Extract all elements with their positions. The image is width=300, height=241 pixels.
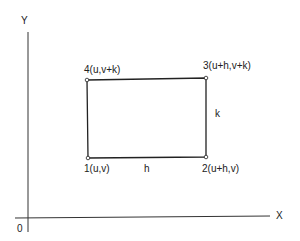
y-axis-label: Y <box>21 15 28 26</box>
coordinate-diagram: Y X 0 1(u,v) 2(u+h,v) 3(u+h,v+k) 4(u,v+k… <box>0 0 300 241</box>
corner-point-3 <box>204 76 208 80</box>
corner-label-1: 1(u,v) <box>84 163 110 174</box>
corner-point-4 <box>85 78 89 82</box>
x-axis <box>15 216 270 218</box>
origin-label: 0 <box>17 223 23 234</box>
corner-label-4: 4(u,v+k) <box>84 64 120 75</box>
corner-point-2 <box>204 155 208 159</box>
corner-label-3: 3(u+h,v+k) <box>203 60 251 71</box>
corner-label-2: 2(u+h,v) <box>202 163 239 174</box>
rectangle <box>87 78 206 158</box>
corner-point-1 <box>86 156 90 160</box>
height-label-k: k <box>215 108 221 119</box>
width-label-h: h <box>144 163 150 174</box>
x-axis-label: X <box>276 210 283 221</box>
